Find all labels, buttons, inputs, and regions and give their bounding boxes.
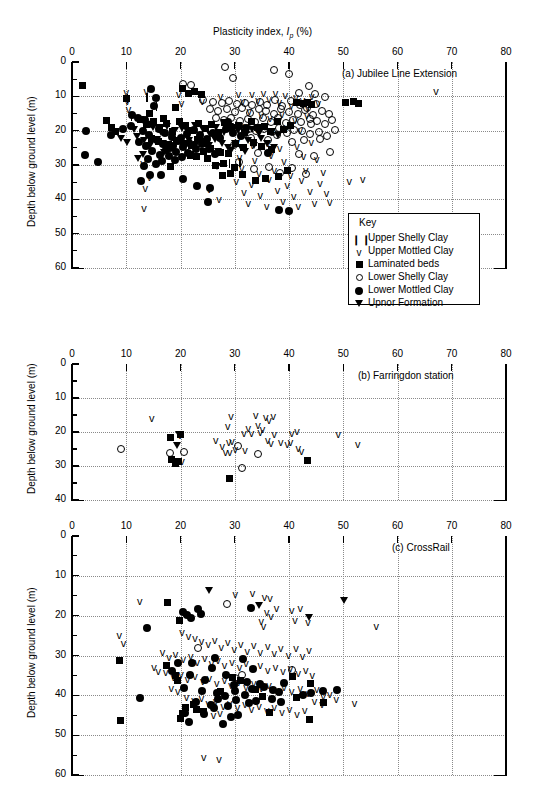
figure-root: Plasticity index, Ip (%)0102030405060010… [0,0,541,794]
legend-laminated-beds-square-icon [352,258,366,270]
data-point-lower-mottled-clay [277,698,285,706]
y-tick-label: 50 [32,728,66,739]
legend-label: Upper Mottled Clay [368,245,454,257]
data-point-upper-mottled-clay: v [200,752,208,762]
y-axis-title: Depth below ground level (m) [26,587,37,718]
legend-upper-shelly-clay-bar-icon: ❙❙ [352,232,366,244]
legend-label: Upper Shelly Clay [368,232,448,244]
y-tick-label: 20 [32,609,66,620]
legend-upnor-formation-triangle-icon [352,297,366,309]
data-point-lower-mottled-clay [234,711,242,719]
data-point-lower-mottled-clay [197,610,205,618]
legend-label: Lower Mottled Clay [368,284,454,296]
data-point-upnor-formation [205,587,213,594]
data-point-lower-mottled-clay [180,684,188,692]
legend-lower-shelly-clay-open-circle-icon [352,271,366,283]
data-point-lower-mottled-clay [275,688,283,696]
data-point-laminated-beds [320,699,327,706]
data-point-upper-mottled-clay: v [301,705,309,715]
data-point-upper-mottled-clay: v [119,638,127,648]
data-point-upnor-formation [305,614,313,621]
data-point-lower-shelly-clay [223,600,231,608]
y-tick-label: 30 [32,649,66,660]
data-point-lower-mottled-clay [231,687,239,695]
data-point-upper-mottled-clay: v [291,615,299,625]
data-point-lower-mottled-clay [241,691,249,699]
data-point-upper-mottled-clay: v [136,596,144,606]
data-point-laminated-beds [306,716,313,723]
data-point-lower-mottled-clay [186,671,194,679]
data-point-upper-mottled-clay: v [305,645,313,655]
data-point-lower-shelly-clay [194,644,202,652]
legend-title: Key [359,217,376,228]
data-point-laminated-beds [164,599,171,606]
x-tick-label: 20 [167,520,195,531]
axis-spine-bottom-left-cap [72,775,84,776]
data-point-upper-mottled-clay: v [308,670,316,680]
data-point-laminated-beds [117,717,124,724]
legend-label: Laminated beds [368,258,439,270]
y-tick-label: 40 [32,688,66,699]
data-point-upper-mottled-clay: v [167,683,175,693]
data-point-laminated-beds [307,680,314,687]
y-tick-label: 10 [32,569,66,580]
data-point-lower-mottled-clay [268,695,276,703]
data-point-lower-mottled-clay [185,718,193,726]
data-point-upper-mottled-clay: v [266,593,274,603]
data-point-lower-mottled-clay [232,696,240,704]
data-point-upper-mottled-clay: v [267,611,275,621]
x-tick-label: 50 [329,520,357,531]
data-point-upnor-formation [255,602,263,609]
data-point-lower-mottled-clay [187,614,195,622]
data-point-laminated-beds [259,693,266,700]
legend-lower-mottled-clay-filled-circle-icon [352,284,366,296]
data-point-lower-mottled-clay [143,624,151,632]
data-point-laminated-beds [174,677,181,684]
x-tick-label: 40 [275,520,303,531]
data-point-upper-mottled-clay: v [249,588,257,598]
data-point-lower-mottled-clay [219,720,227,728]
data-point-upper-mottled-clay: v [296,603,304,613]
axis-spine-bottom-right-cap [494,775,506,776]
x-tick-label: 60 [384,520,412,531]
panel-c: 010203040506001020304050607080Depth belo… [0,0,541,794]
legend-key-box: Key❙❙Upper Shelly ClayvUpper Mottled Cla… [348,213,480,305]
data-point-lower-mottled-clay [224,702,232,710]
data-point-lower-mottled-clay [181,709,189,717]
data-point-upper-mottled-clay: v [351,698,359,708]
data-point-lower-mottled-clay [168,667,176,675]
data-point-laminated-beds [176,617,183,624]
data-point-upnor-formation [340,597,348,604]
x-tick-label: 80 [492,520,520,531]
data-point-lower-mottled-clay [333,686,341,694]
data-point-lower-mottled-clay [200,710,208,718]
legend-label: Upnor Formation [368,297,443,309]
data-point-lower-mottled-clay [208,664,216,672]
data-point-upper-mottled-clay: v [372,621,380,631]
x-tick-label: 30 [221,520,249,531]
data-point-lower-mottled-clay [307,689,315,697]
data-point-upper-mottled-clay: v [259,621,267,631]
data-point-upper-mottled-clay: v [154,666,162,676]
data-point-upper-mottled-clay: v [215,754,223,764]
data-point-lower-mottled-clay [319,687,327,695]
data-point-upper-mottled-clay: v [332,694,340,704]
x-tick-label: 10 [112,520,140,531]
data-point-lower-mottled-clay [136,694,144,702]
legend-upper-mottled-clay-vee-icon: v [352,245,366,257]
data-point-lower-mottled-clay [192,698,200,706]
data-point-laminated-beds [116,657,123,664]
x-tick-label: 0 [58,520,86,531]
plot-area-c: vvvvvvvvvvvvvvvvvvvvvvvvvvvvvvvvvvvvvvvv… [72,536,506,775]
legend-label: Lower Shelly Clay [368,271,448,283]
x-tick-label: 70 [438,520,466,531]
data-point-laminated-beds [266,709,273,716]
y-tick-label: 60 [32,768,66,779]
data-point-upper-mottled-clay: v [231,589,239,599]
gridline-horizontal [72,775,506,776]
data-point-lower-mottled-clay [280,679,288,687]
data-point-lower-mottled-clay [198,687,206,695]
data-point-lower-mottled-clay [174,659,182,667]
